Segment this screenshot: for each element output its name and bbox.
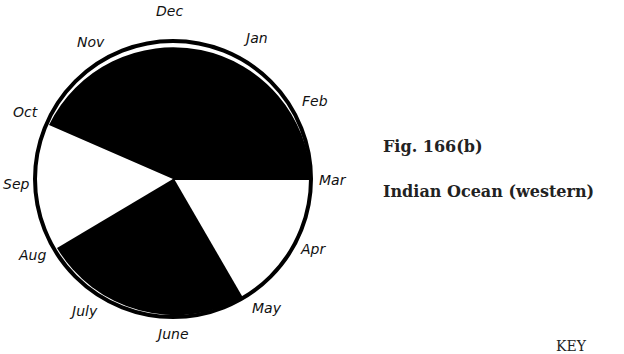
- month-label-oct: Oct: [13, 104, 37, 120]
- month-label-may: May: [252, 300, 281, 316]
- month-label-apr: Apr: [301, 241, 325, 257]
- month-label-nov: Nov: [77, 34, 104, 50]
- month-label-july: July: [72, 303, 97, 319]
- month-label-aug: Aug: [19, 247, 46, 263]
- month-label-june: June: [158, 326, 189, 342]
- month-label-mar: Mar: [319, 172, 345, 188]
- figure-title: Indian Ocean (western): [383, 182, 594, 201]
- month-label-dec: Dec: [156, 3, 183, 19]
- key-heading: KEY: [556, 338, 586, 354]
- month-label-feb: Feb: [302, 93, 328, 109]
- figure-number: Fig. 166(b): [383, 137, 483, 156]
- month-label-sep: Sep: [3, 176, 29, 192]
- month-label-jan: Jan: [246, 30, 268, 46]
